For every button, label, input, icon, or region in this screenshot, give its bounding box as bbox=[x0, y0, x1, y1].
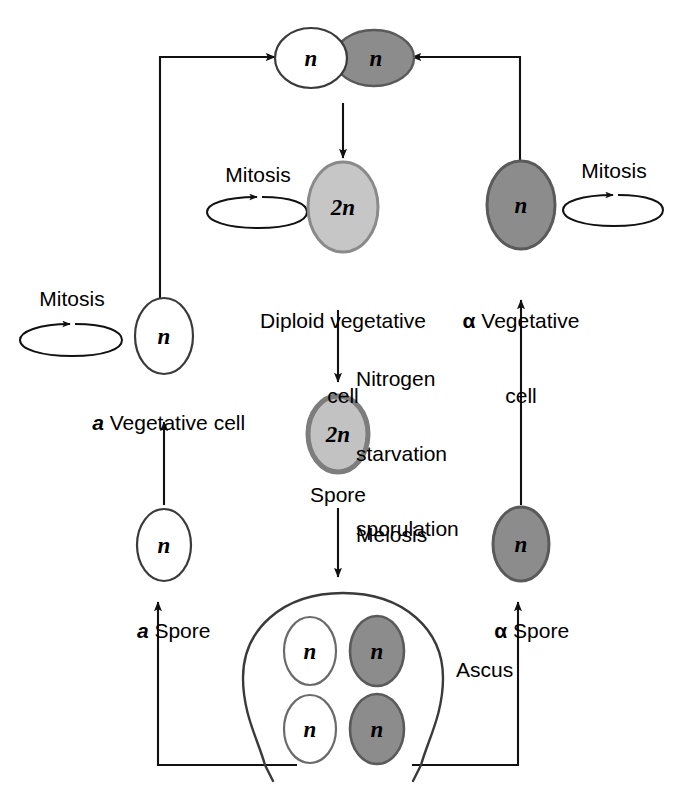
ascus-spore-3-label: n bbox=[304, 717, 317, 742]
a-spore-label-text: a Spore bbox=[114, 593, 211, 668]
alpha-symbol: α bbox=[463, 309, 476, 332]
ascus-sac: n n n n bbox=[243, 593, 443, 781]
a-cell-label-text: Vegetative cell bbox=[104, 411, 245, 434]
ascus-spore-1-label: n bbox=[304, 639, 317, 664]
alpha-vegetative-cell-label: α Vegetative cell bbox=[463, 258, 580, 458]
yeast-life-cycle-diagram: n n 2n n n 2n n n bbox=[0, 0, 679, 800]
a-mating-type-symbol: a bbox=[92, 411, 104, 434]
a-spore-mating-symbol: a bbox=[137, 619, 149, 642]
alpha-cell-label-text: Vegetative bbox=[476, 309, 580, 332]
alpha-cell-label: n bbox=[515, 193, 528, 218]
spore-label: Spore bbox=[310, 482, 366, 507]
zygote-left-label: n bbox=[305, 46, 318, 71]
a-spore-label: n bbox=[158, 533, 171, 558]
ascus-outline bbox=[243, 593, 443, 781]
mitosis-label-center: Mitosis bbox=[225, 162, 290, 187]
nitrogen-label-line2: starvation bbox=[356, 441, 459, 466]
mitosis-loop-left bbox=[20, 324, 122, 356]
a-vegetative-cell: n bbox=[135, 298, 193, 374]
alpha-spore-cell: n bbox=[493, 507, 549, 581]
ascus-spore-2-label: n bbox=[371, 639, 384, 664]
zygote-right-label: n bbox=[370, 46, 383, 71]
mitosis-label-left: Mitosis bbox=[39, 286, 104, 311]
alpha-spore-label: n bbox=[515, 532, 528, 557]
path-alpha-cell-to-zygote bbox=[412, 57, 520, 170]
nitrogen-label-line1: Nitrogen bbox=[356, 366, 459, 391]
meiosis-label: Meiosis bbox=[356, 522, 427, 547]
mitosis-loop-center bbox=[207, 197, 307, 228]
diploid-cell-label: 2n bbox=[330, 195, 355, 220]
a-vegetative-cell-label: a Vegetative cell bbox=[69, 385, 245, 460]
mitosis-label-right: Mitosis bbox=[581, 158, 646, 183]
alpha-cell-label-line2: cell bbox=[463, 383, 580, 408]
a-spore-cell: n bbox=[137, 509, 191, 581]
zygote-cell: n n bbox=[275, 28, 414, 88]
alpha-spore-symbol: α bbox=[494, 619, 507, 642]
a-cell-label: n bbox=[158, 324, 171, 349]
mitosis-loop-right bbox=[563, 195, 663, 226]
alpha-cell-label-line1: α Vegetative bbox=[463, 308, 580, 333]
alpha-spore-word: Spore bbox=[507, 619, 569, 642]
alpha-vegetative-cell: n bbox=[487, 161, 555, 249]
a-spore-word: Spore bbox=[149, 619, 211, 642]
ascus-label: Ascus bbox=[456, 657, 513, 682]
nitrogen-starvation-label: Nitrogen starvation sporulation bbox=[356, 316, 459, 591]
ascus-spore-4-label: n bbox=[371, 717, 384, 742]
diploid-vegetative-cell: 2n bbox=[308, 162, 378, 252]
